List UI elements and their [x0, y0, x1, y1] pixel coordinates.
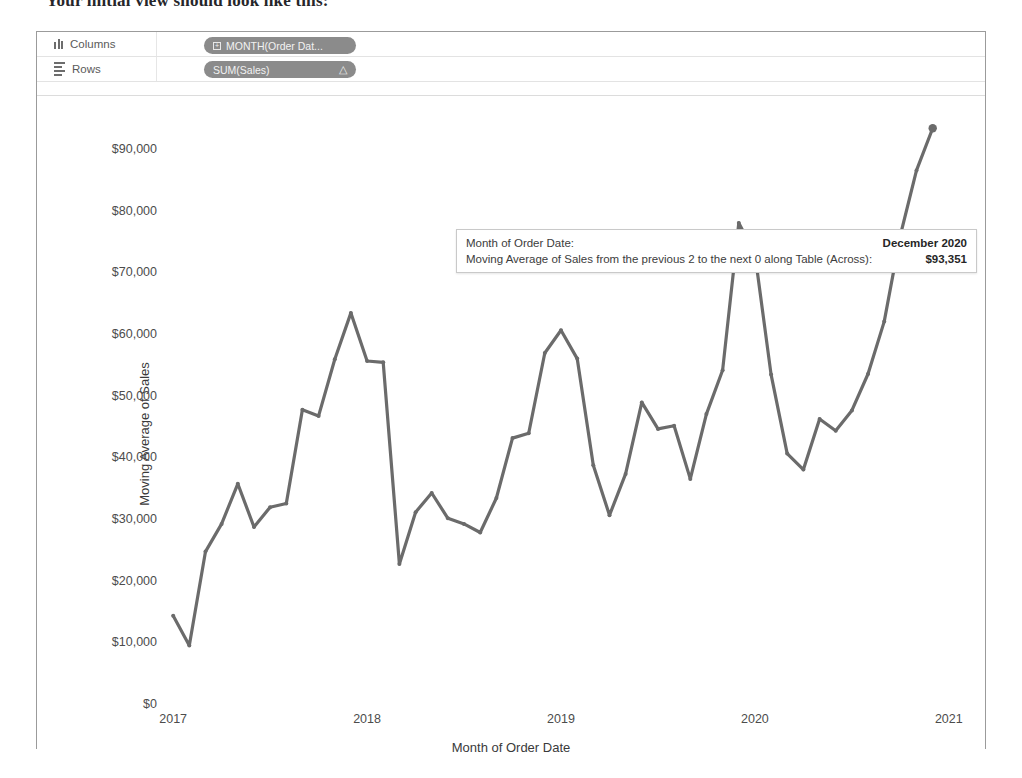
chart-svg: [37, 96, 987, 772]
data-point[interactable]: [801, 468, 805, 472]
data-point[interactable]: [769, 373, 773, 377]
tooltip-row: Moving Average of Sales from the previou…: [466, 251, 967, 267]
data-point[interactable]: [446, 516, 450, 520]
line-chart-plot: [37, 96, 985, 772]
tooltip-value: December 2020: [875, 235, 967, 251]
data-point[interactable]: [866, 372, 870, 376]
columns-icon: [54, 39, 63, 49]
x-axis-tick: 2021: [935, 712, 963, 726]
x-axis-tick: 2020: [741, 712, 769, 726]
x-axis-tick-labels: 20172018201920202021: [37, 712, 985, 728]
data-point[interactable]: [656, 427, 660, 431]
data-point[interactable]: [721, 368, 725, 372]
data-point[interactable]: [915, 168, 919, 172]
data-point[interactable]: [591, 463, 595, 467]
columns-shelf-label: Columns: [37, 32, 157, 56]
tooltip-key: Month of Order Date:: [466, 235, 574, 251]
data-point[interactable]: [608, 513, 612, 517]
data-point[interactable]: [785, 452, 789, 456]
data-point[interactable]: [268, 505, 272, 509]
data-point[interactable]: [317, 414, 321, 418]
data-point[interactable]: [818, 417, 822, 421]
data-point[interactable]: [462, 522, 466, 526]
data-point[interactable]: [672, 424, 676, 428]
x-axis-tick: 2018: [353, 712, 381, 726]
data-point[interactable]: [300, 408, 304, 412]
data-point[interactable]: [527, 431, 531, 435]
tableau-worksheet: Columns + MONTH(Order Dat... Rows SUM(Sa…: [36, 31, 986, 749]
tooltip-value: $93,351: [917, 251, 967, 267]
rows-shelf-field[interactable]: SUM(Sales) △: [157, 60, 356, 79]
data-point[interactable]: [511, 436, 515, 440]
pill-sum-sales-label: SUM(Sales): [213, 64, 270, 76]
data-point[interactable]: [381, 360, 385, 364]
data-point[interactable]: [688, 477, 692, 481]
x-axis-title: Month of Order Date: [37, 740, 985, 755]
pill-month-order-date-label: MONTH(Order Dat...: [226, 40, 323, 52]
data-point[interactable]: [333, 357, 337, 361]
tooltip-row: Month of Order Date: December 2020: [466, 235, 967, 251]
data-point[interactable]: [624, 472, 628, 476]
data-point[interactable]: [220, 522, 224, 526]
data-point[interactable]: [284, 502, 288, 506]
data-point[interactable]: [575, 357, 579, 361]
chart-tooltip: Month of Order Date: December 2020 Movin…: [456, 229, 977, 273]
pill-month-order-date[interactable]: + MONTH(Order Dat...: [204, 37, 356, 54]
rows-shelf[interactable]: Rows SUM(Sales) △: [37, 57, 985, 82]
columns-shelf-text: Columns: [70, 38, 115, 50]
data-point[interactable]: [559, 328, 563, 332]
data-point[interactable]: [236, 482, 240, 486]
data-point[interactable]: [171, 614, 175, 618]
data-point[interactable]: [704, 412, 708, 416]
data-point[interactable]: [478, 531, 482, 535]
data-point[interactable]: [397, 562, 401, 566]
data-point[interactable]: [204, 550, 208, 554]
data-point[interactable]: [543, 351, 547, 355]
data-point[interactable]: [430, 491, 434, 495]
table-calculation-delta-icon[interactable]: △: [339, 63, 347, 76]
rows-icon: [54, 62, 65, 76]
columns-shelf[interactable]: Columns + MONTH(Order Dat...: [37, 32, 985, 57]
rows-shelf-label: Rows: [37, 57, 157, 81]
x-axis-tick: 2017: [159, 712, 187, 726]
data-point[interactable]: [882, 320, 886, 324]
tooltip-key: Moving Average of Sales from the previou…: [466, 251, 872, 267]
data-point[interactable]: [850, 408, 854, 412]
data-point[interactable]: [414, 510, 418, 514]
data-point[interactable]: [494, 496, 498, 500]
pill-sum-sales[interactable]: SUM(Sales) △: [204, 61, 356, 78]
columns-shelf-field[interactable]: + MONTH(Order Dat...: [157, 34, 356, 54]
data-point[interactable]: [187, 643, 191, 647]
screenshot-page: Your initial view should look like this:…: [0, 0, 1022, 778]
page-caption: Your initial view should look like this:: [46, 0, 329, 11]
sales-line: [173, 128, 933, 645]
expand-plus-icon[interactable]: +: [213, 42, 221, 50]
data-point-highlighted[interactable]: [929, 124, 937, 132]
x-axis-tick: 2019: [547, 712, 575, 726]
data-point[interactable]: [349, 311, 353, 315]
rows-shelf-text: Rows: [72, 63, 101, 75]
data-point[interactable]: [365, 359, 369, 363]
data-point[interactable]: [252, 525, 256, 529]
data-point[interactable]: [640, 400, 644, 404]
shelf-divider-strip: [37, 82, 985, 96]
data-point[interactable]: [834, 429, 838, 433]
data-point[interactable]: [737, 221, 741, 225]
chart-canvas: Moving Average of Sales $0$10,000$20,000…: [37, 96, 985, 772]
